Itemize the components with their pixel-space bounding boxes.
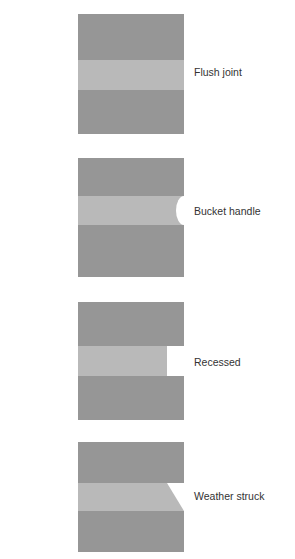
- flush-joint-diagram: [78, 14, 184, 134]
- recessed-joint-diagram: [78, 302, 184, 420]
- weather-struck-joint-diagram: [78, 442, 184, 552]
- label-weather-struck: Weather struck: [194, 490, 264, 502]
- label-flush-joint: Flush joint: [194, 66, 242, 78]
- joint-weather-struck: [78, 442, 184, 552]
- label-recessed: Recessed: [194, 356, 241, 368]
- label-bucket-handle: Bucket handle: [194, 205, 261, 217]
- joint-bucket-handle: [78, 158, 184, 277]
- joint-recessed: [78, 302, 184, 420]
- joint-flush: [78, 14, 184, 134]
- bucket-handle-joint-diagram: [78, 158, 184, 277]
